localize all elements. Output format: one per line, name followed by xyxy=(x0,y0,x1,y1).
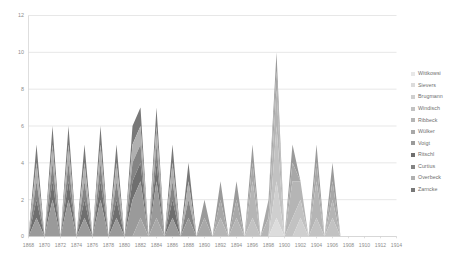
area-chart-svg: 024681012 186818701872187418761878188018… xyxy=(0,0,467,256)
legend-item-wittkowsi[interactable]: Wittkowsi xyxy=(411,68,467,80)
y-tick-label: 10 xyxy=(18,49,24,55)
y-tick-label: 4 xyxy=(21,160,24,166)
x-tick-label: 1904 xyxy=(311,242,322,248)
legend-swatch-icon xyxy=(411,107,415,111)
legend-label: Wittkowsi xyxy=(418,71,441,76)
legend-label: Sievers xyxy=(418,83,436,88)
legend-label: Curtius xyxy=(418,164,435,169)
legend-item-overbeck[interactable]: Overbeck xyxy=(411,172,467,184)
x-tick-label: 1892 xyxy=(215,242,226,248)
x-tick-labels-group: 1868187018721874187618781880188218841886… xyxy=(23,242,402,248)
chart-legend: WittkowsiSieversBrugmannWindischRibbeckW… xyxy=(411,68,467,196)
x-tick-label: 1902 xyxy=(295,242,306,248)
legend-item-ribbeck[interactable]: Ribbeck xyxy=(411,114,467,126)
x-tick-label: 1900 xyxy=(279,242,290,248)
x-tick-label: 1874 xyxy=(71,242,82,248)
x-tick-label: 1884 xyxy=(151,242,162,248)
x-tick-label: 1898 xyxy=(263,242,274,248)
x-tick-label: 1890 xyxy=(199,242,210,248)
x-tick-label: 1868 xyxy=(23,242,34,248)
x-tick-label: 1906 xyxy=(327,242,338,248)
x-tick-label: 1888 xyxy=(183,242,194,248)
y-tick-label: 12 xyxy=(18,12,24,18)
x-tick-label: 1870 xyxy=(39,242,50,248)
legend-item-sievers[interactable]: Sievers xyxy=(411,80,467,92)
x-tick-label: 1914 xyxy=(391,242,402,248)
legend-label: Brugmann xyxy=(418,94,443,99)
legend-label: Windisch xyxy=(418,106,440,111)
legend-label: Voigt xyxy=(418,141,430,146)
legend-swatch-icon xyxy=(411,72,415,76)
y-tick-label: 8 xyxy=(21,86,24,92)
plot-area: 024681012 186818701872187418761878188018… xyxy=(0,0,467,256)
x-tick-label: 1910 xyxy=(359,242,370,248)
legend-item-brugmann[interactable]: Brugmann xyxy=(411,91,467,103)
legend-item-curtius[interactable]: Curtius xyxy=(411,161,467,173)
legend-swatch-icon xyxy=(411,188,415,192)
legend-swatch-icon xyxy=(411,83,415,87)
legend-swatch-icon xyxy=(411,130,415,134)
legend-label: Overbeck xyxy=(418,175,441,180)
legend-item-windisch[interactable]: Windisch xyxy=(411,103,467,115)
legend-swatch-icon xyxy=(411,165,415,169)
legend-label: Wülker xyxy=(418,129,435,134)
legend-label: Ritschl xyxy=(418,152,434,157)
chart-container: 024681012 186818701872187418761878188018… xyxy=(0,0,467,256)
series-areas-group xyxy=(29,52,397,236)
legend-item-wülker[interactable]: Wülker xyxy=(411,126,467,138)
legend-label: Ribbeck xyxy=(418,118,438,123)
x-tick-label: 1894 xyxy=(231,242,242,248)
y-tick-label: 6 xyxy=(21,123,24,129)
y-tick-label: 2 xyxy=(21,197,24,203)
legend-swatch-icon xyxy=(411,141,415,145)
series-area-ritschl xyxy=(29,52,397,236)
legend-swatch-icon xyxy=(411,118,415,122)
legend-item-voigt[interactable]: Voigt xyxy=(411,138,467,150)
x-tick-label: 1908 xyxy=(343,242,354,248)
legend-swatch-icon xyxy=(411,95,415,99)
x-tick-label: 1896 xyxy=(247,242,258,248)
x-tick-label: 1872 xyxy=(55,242,66,248)
legend-label: Zarncke xyxy=(418,187,437,192)
x-tick-label: 1886 xyxy=(167,242,178,248)
legend-swatch-icon xyxy=(411,153,415,157)
y-tick-labels-group: 024681012 xyxy=(18,12,24,239)
x-tick-label: 1878 xyxy=(103,242,114,248)
y-tick-label: 0 xyxy=(21,233,24,239)
x-tick-label: 1876 xyxy=(87,242,98,248)
legend-item-zarncke[interactable]: Zarncke xyxy=(411,184,467,196)
legend-swatch-icon xyxy=(411,176,415,180)
x-tick-label: 1882 xyxy=(135,242,146,248)
x-tick-label: 1912 xyxy=(375,242,386,248)
x-tick-label: 1880 xyxy=(119,242,130,248)
legend-item-ritschl[interactable]: Ritschl xyxy=(411,149,467,161)
